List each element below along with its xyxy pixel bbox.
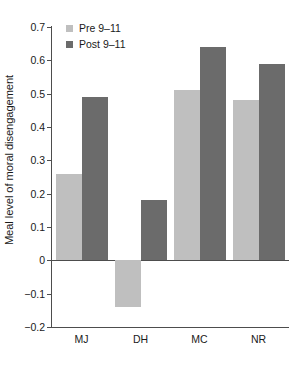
bar-mj-pre bbox=[56, 174, 82, 261]
bar-mc-post bbox=[200, 47, 226, 260]
bar-dh-post bbox=[141, 200, 167, 260]
plot-area bbox=[52, 27, 288, 327]
y-tick-label: 0.7 bbox=[3, 21, 45, 33]
legend-swatch-post-icon bbox=[66, 41, 73, 48]
x-tick-label-nr: NR bbox=[234, 333, 284, 345]
y-tick-label: 0.6 bbox=[3, 54, 45, 66]
chart-legend: Pre 9–11 Post 9–11 bbox=[66, 22, 126, 51]
bar-mj-post bbox=[82, 97, 108, 260]
y-tick-label: −0.2 bbox=[3, 321, 45, 333]
y-tick-label: 0.5 bbox=[3, 88, 45, 100]
bar-mc-pre bbox=[174, 90, 200, 260]
bar-nr-post bbox=[259, 64, 285, 261]
legend-entry-post: Post 9–11 bbox=[66, 38, 126, 51]
legend-label-pre: Pre 9–11 bbox=[79, 23, 121, 34]
y-tick-label: 0 bbox=[3, 254, 45, 266]
y-tick-mark bbox=[47, 327, 52, 328]
x-tick-label-dh: DH bbox=[116, 333, 166, 345]
y-tick-label: 0.1 bbox=[3, 221, 45, 233]
x-tick-label-mj: MJ bbox=[57, 333, 107, 345]
legend-swatch-pre-icon bbox=[66, 25, 73, 32]
y-tick-label: 0.2 bbox=[3, 188, 45, 200]
y-tick-label: 0.3 bbox=[3, 154, 45, 166]
bar-dh-pre bbox=[115, 260, 141, 307]
x-tick-label-mc: MC bbox=[175, 333, 225, 345]
legend-label-post: Post 9–11 bbox=[79, 39, 126, 50]
x-axis-line bbox=[51, 327, 289, 328]
y-tick-label: −0.1 bbox=[3, 288, 45, 300]
y-tick-label: 0.4 bbox=[3, 121, 45, 133]
bar-chart-figure: Meal level of moral disengagement 0.70.6… bbox=[0, 0, 298, 369]
legend-entry-pre: Pre 9–11 bbox=[66, 22, 126, 35]
bar-nr-pre bbox=[233, 100, 259, 260]
